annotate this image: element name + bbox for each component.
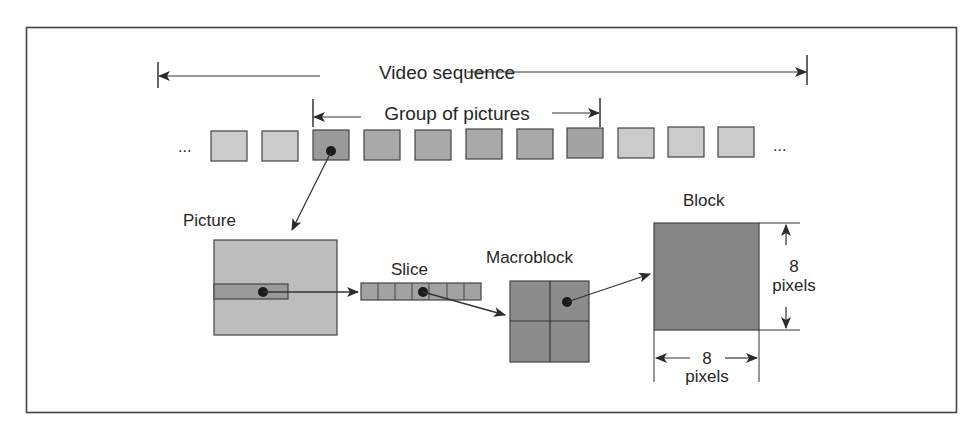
frame-5 (415, 130, 451, 160)
frame-1 (211, 131, 247, 161)
frame-9 (618, 128, 654, 158)
arrow-frame-to-picture (292, 152, 331, 230)
macroblock: Macroblock (486, 248, 589, 362)
video-sequence-span: Video sequence (158, 55, 807, 88)
ellipsis-right: ... (773, 137, 786, 154)
block: Block 8 pixels 8 pixels (654, 191, 816, 386)
gop-label: Group of pictures (384, 103, 530, 124)
block-width-value: 8 (702, 349, 711, 368)
frame-4 (364, 130, 400, 160)
frame-10 (668, 127, 704, 157)
picture: Picture (183, 211, 337, 335)
frame-sequence: ... ... (178, 127, 786, 161)
selected-frame-dot (326, 146, 336, 156)
slice: Slice (361, 260, 481, 300)
frame-6 (466, 129, 502, 159)
frame-7 (517, 129, 553, 159)
block-square (654, 223, 759, 330)
video-sequence-label: Video sequence (379, 62, 515, 83)
ellipsis-left: ... (178, 138, 191, 155)
frame-2 (262, 131, 298, 161)
picture-label: Picture (183, 211, 236, 230)
block-height-value: 8 (789, 257, 798, 276)
block-height-unit: pixels (772, 276, 815, 295)
slice-label: Slice (391, 260, 428, 279)
block-width-unit: pixels (685, 367, 728, 386)
video-structure-diagram: Video sequence Group of pictures ... ...… (0, 0, 975, 439)
macroblock-label: Macroblock (486, 248, 573, 267)
gop-span: Group of pictures (313, 98, 600, 127)
outer-frame (27, 28, 957, 413)
frame-8 (567, 128, 603, 158)
frame-11 (718, 127, 754, 157)
block-label: Block (683, 191, 725, 210)
